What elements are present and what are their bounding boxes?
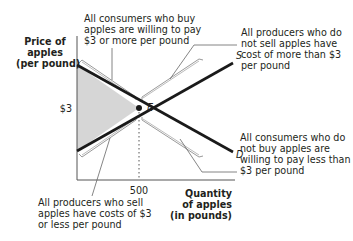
note-consumers-not-buy: All consumers who do not buy apples are … — [240, 132, 351, 176]
note-producers-not-sell: All producers who do not sell apples hav… — [241, 27, 342, 71]
y-axis-label: Price of apples (per pound) — [16, 36, 74, 69]
x-axis-label: Quantity of apples (in pounds) — [170, 188, 232, 221]
equilibrium-label: E — [147, 102, 153, 113]
equilibrium-point — [136, 105, 142, 111]
x-tick-500: 500 — [124, 185, 154, 196]
note-producers-sell: All producers who sell apples have costs… — [38, 197, 152, 230]
note-consumers-buy: All consumers who buy apples are willing… — [84, 13, 201, 46]
y-tick-3: $3 — [40, 103, 72, 114]
